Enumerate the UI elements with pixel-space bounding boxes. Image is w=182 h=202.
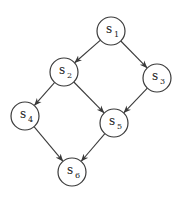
node-label: s: [106, 22, 112, 36]
node-s1: s1: [97, 17, 125, 45]
node-s6: s6: [58, 158, 86, 186]
node-subscript: 3: [160, 77, 165, 86]
node-label: s: [67, 163, 73, 177]
edge-s5-to-s6: [81, 134, 104, 161]
node-label: s: [152, 69, 158, 83]
edge-s1-to-s2: [75, 40, 101, 62]
node-s3: s3: [143, 64, 171, 92]
node-s2: s2: [50, 58, 78, 86]
edge-s3-to-s5: [124, 88, 147, 112]
edge-s2-to-s4: [35, 82, 55, 105]
node-subscript: 5: [117, 122, 122, 131]
nodes-group: s1s2s3s4s5s6: [11, 17, 171, 186]
node-subscript: 2: [67, 71, 72, 80]
state-graph: s1s2s3s4s5s6: [0, 0, 182, 202]
node-s5: s5: [100, 109, 128, 137]
edge-s1-to-s3: [121, 41, 147, 68]
edges-group: [34, 40, 147, 161]
edge-s4-to-s6: [34, 127, 63, 161]
node-s4: s4: [11, 102, 39, 130]
node-label: s: [109, 114, 115, 128]
node-subscript: 6: [75, 171, 80, 180]
node-subscript: 4: [28, 115, 33, 124]
node-subscript: 1: [114, 30, 119, 39]
edge-s2-to-s5: [74, 82, 104, 113]
node-label: s: [20, 107, 26, 121]
node-label: s: [59, 63, 65, 77]
